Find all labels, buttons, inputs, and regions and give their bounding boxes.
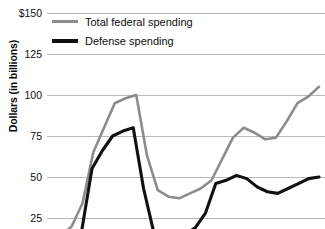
line-defense-spending bbox=[61, 128, 319, 229]
legend-line-icon-total bbox=[52, 20, 78, 23]
legend-label-defense: Defense spending bbox=[85, 35, 174, 47]
ytick-label-75: 75 bbox=[0, 130, 42, 142]
legend-item-defense-spending: Defense spending bbox=[52, 31, 193, 50]
legend: Total federal spending Defense spending bbox=[52, 12, 193, 50]
spending-line-chart: Dollars (in billions) $150 125 100 75 50… bbox=[0, 0, 325, 229]
legend-label-total: Total federal spending bbox=[85, 16, 193, 28]
legend-line-icon-defense bbox=[52, 39, 78, 43]
ytick-label-125: 125 bbox=[0, 48, 42, 60]
ytick-label-100: 100 bbox=[0, 89, 42, 101]
legend-item-total-federal-spending: Total federal spending bbox=[52, 12, 193, 31]
ytick-label-50: 50 bbox=[0, 171, 42, 183]
ytick-label-150: $150 bbox=[0, 7, 42, 19]
ytick-label-25: 25 bbox=[0, 212, 42, 224]
